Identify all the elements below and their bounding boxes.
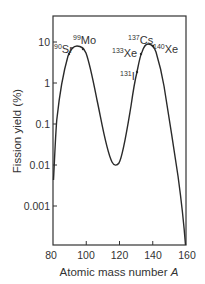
y-tick-label: 0.01: [30, 159, 51, 171]
x-axis-ticks: [86, 241, 153, 245]
annotation-mo99: 99Mo: [73, 34, 96, 46]
y-axis-tick-labels: 10 1 0.1 0.01 0.001: [24, 36, 50, 212]
y-tick-label: 0.001: [24, 200, 50, 212]
x-tick-label: 100: [77, 249, 95, 261]
x-tick-label: 80: [45, 249, 57, 261]
x-axis-label: Atomic mass number A: [60, 266, 179, 278]
x-tick-label: 160: [178, 249, 196, 261]
annotation-cs137: 137Cs: [128, 34, 154, 46]
y-tick-label: 0.1: [35, 118, 50, 130]
y-tick-label: 1: [44, 77, 50, 89]
marker-mo99: [82, 48, 84, 50]
x-tick-label: 140: [144, 249, 162, 261]
x-tick-label: 120: [111, 249, 129, 261]
x-axis-tick-labels: 80 100 120 140 160: [45, 249, 196, 261]
marker-xe133: [140, 53, 142, 55]
annotation-i131: 131I: [120, 70, 135, 82]
y-axis-label: Fission yield (%): [11, 89, 23, 174]
annotation-xe133: 133Xe: [112, 47, 137, 59]
fission-yield-chart: 10 1 0.1 0.01 0.001 80 100 120 140 160 A…: [0, 0, 205, 284]
isotope-markers: [68, 45, 154, 73]
y-tick-label: 10: [38, 36, 50, 48]
marker-i131: [136, 71, 138, 73]
annotation-sr90: 90Sr: [54, 43, 73, 55]
